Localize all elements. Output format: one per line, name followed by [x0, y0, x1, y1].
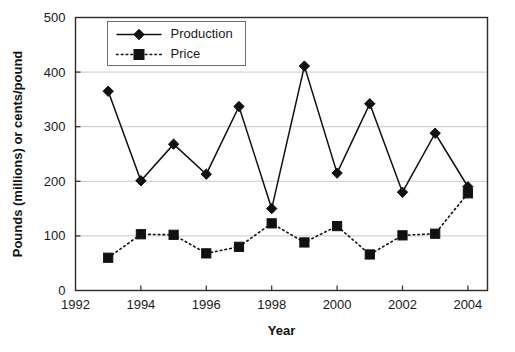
- data-point: [365, 250, 374, 259]
- legend-label: Price: [171, 46, 201, 61]
- data-point: [104, 253, 113, 262]
- chart-legend: ProductionPrice: [108, 22, 246, 66]
- x-tick-label: 2002: [388, 297, 417, 312]
- x-axis-tick-labels: 1992199419961998200020022004: [61, 297, 482, 312]
- data-point: [234, 242, 243, 251]
- y-axis-ticks: [76, 72, 81, 236]
- data-point: [300, 238, 309, 247]
- x-tick-label: 2000: [323, 297, 352, 312]
- data-point: [430, 128, 440, 138]
- data-point: [332, 168, 342, 178]
- x-tick-label: 1998: [257, 297, 286, 312]
- line-chart: 0100200300400500 19921994199619982000200…: [0, 0, 515, 352]
- y-tick-label: 500: [44, 10, 66, 25]
- legend-label: Production: [171, 26, 233, 41]
- x-tick-label: 1996: [192, 297, 221, 312]
- data-point: [299, 61, 309, 71]
- x-tick-label: 2004: [453, 297, 482, 312]
- data-point: [136, 230, 145, 239]
- x-axis-ticks: [141, 286, 468, 291]
- data-point: [397, 187, 407, 197]
- y-tick-label: 300: [44, 119, 66, 134]
- y-axis-title: Pounds (millions) or cents/pound: [10, 51, 25, 258]
- series-production: [103, 61, 473, 214]
- data-point: [266, 203, 276, 213]
- x-axis-title: Year: [268, 323, 295, 338]
- data-point: [234, 101, 244, 111]
- data-point: [431, 229, 440, 238]
- gridlines: [76, 72, 488, 236]
- data-point: [463, 189, 472, 198]
- data-point: [332, 221, 341, 230]
- data-point: [202, 249, 211, 258]
- data-point: [267, 219, 276, 228]
- x-tick-label: 1992: [61, 297, 90, 312]
- series-price: [104, 189, 473, 263]
- data-series: [103, 61, 473, 262]
- data-point: [169, 230, 178, 239]
- y-tick-label: 100: [44, 228, 66, 243]
- data-point: [103, 86, 113, 96]
- data-point: [398, 231, 407, 240]
- data-point: [365, 99, 375, 109]
- y-axis-tick-labels: 0100200300400500: [44, 10, 66, 298]
- y-tick-label: 200: [44, 174, 66, 189]
- chart-container: 0100200300400500 19921994199619982000200…: [0, 0, 515, 352]
- x-tick-label: 1994: [126, 297, 155, 312]
- y-tick-label: 400: [44, 65, 66, 80]
